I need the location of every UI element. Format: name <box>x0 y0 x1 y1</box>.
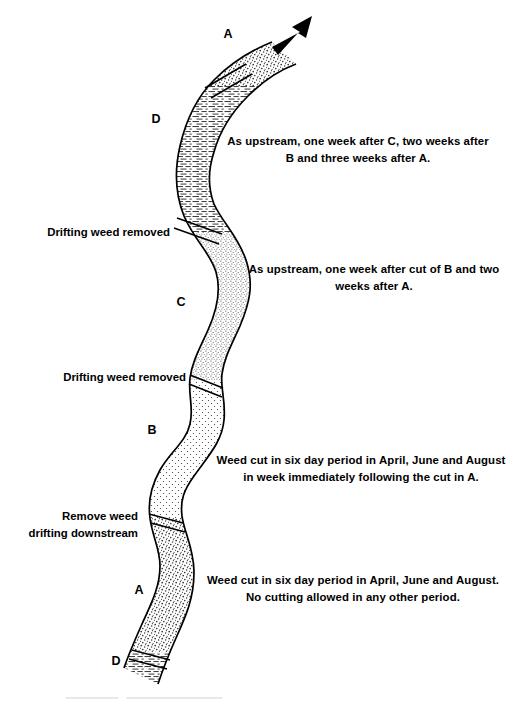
label-drifting-weed-removed-lower: Drifting weed removed <box>38 369 186 386</box>
note-reach-c: As upstream, one week after cut of B and… <box>230 261 518 294</box>
reach-label-a-lower: A <box>131 581 147 599</box>
note-reach-d-upper: As upstream, one week after C, two weeks… <box>208 133 508 166</box>
reach-label-d-upper: D <box>148 110 164 128</box>
reach-label-a-top: A <box>220 25 236 43</box>
flow-direction-arrow <box>272 16 312 55</box>
reach-label-d-lower: D <box>108 652 124 670</box>
reach-a-top <box>150 0 525 86</box>
reach-b <box>100 380 525 518</box>
note-reach-a-lower: Weed cut in six day period in April, Jun… <box>188 572 518 605</box>
label-drifting-weed-removed-upper: Drifting weed removed <box>22 224 170 241</box>
reach-label-b: B <box>144 421 160 439</box>
diagram-canvas: A D C B A D Drifting weed removed Drifti… <box>0 0 525 703</box>
reach-d-lower <box>90 652 525 703</box>
reach-label-c: C <box>173 293 189 311</box>
caption-artifact <box>66 697 222 699</box>
label-remove-weed-drifting-downstream: Remove weed drifting downstream <box>16 508 138 541</box>
note-reach-b: Weed cut in six day period in April, Jun… <box>202 452 520 485</box>
